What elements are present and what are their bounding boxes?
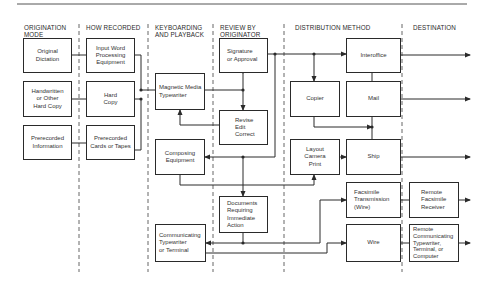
node-prerecorded-cards: Prerecorded Cards or Tapes bbox=[86, 125, 135, 160]
column-header-distribution: DISTRIBUTION METHOD bbox=[295, 24, 370, 31]
column-header-keyboarding: KEYBOARDING AND PLAYBACK bbox=[155, 24, 204, 38]
node-facsimile-transmission: Facsimile Transmission (Wire) bbox=[346, 182, 401, 218]
node-mail: Mail bbox=[346, 81, 401, 117]
node-ship: Ship bbox=[346, 139, 401, 175]
node-prerecorded-information: Prerecorded Information bbox=[23, 125, 72, 160]
node-interoffice: Interoffice bbox=[346, 38, 401, 73]
node-documents-requiring-action: Documents Requiring Immediate Action bbox=[219, 196, 268, 233]
column-header-how-recorded: HOW RECORDED bbox=[86, 24, 140, 31]
column-header-review: REVIEW BY ORIGINATOR bbox=[220, 24, 260, 38]
column-header-origination: ORIGINATION MODE bbox=[24, 24, 66, 38]
node-magnetic-media-typewriter: Magnetic Media Typewriter bbox=[155, 73, 205, 110]
node-hard-copy: Hard Copy bbox=[86, 81, 135, 117]
node-wire: Wire bbox=[346, 224, 401, 262]
node-handwritten: Handwritten or Other Hard Copy bbox=[23, 81, 72, 117]
node-revise-edit-correct: Revise Edit Correct bbox=[219, 110, 268, 145]
node-signature-approval: Signature or Approval bbox=[219, 38, 268, 73]
node-remote-communicating: Remote Communicating Typewriter, Termina… bbox=[409, 224, 459, 262]
node-copier: Copier bbox=[290, 81, 340, 117]
node-remote-facsimile-receiver: Remote Facsimile Receiver bbox=[409, 182, 459, 218]
node-input-word-processing: Input Word Processing Equipment bbox=[86, 38, 135, 73]
node-communicating-typewriter: Communicating Typewriter or Terminal bbox=[155, 224, 206, 262]
node-composing-equipment: Composing Equipment bbox=[155, 139, 205, 175]
node-original-dictation: Original Dictation bbox=[23, 38, 72, 73]
node-layout-camera-print: Layout Camera Print bbox=[290, 139, 340, 175]
column-header-destination: DESTINATION bbox=[413, 24, 456, 31]
